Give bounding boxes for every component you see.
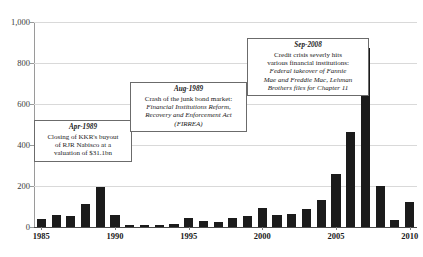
annotation-date: Sep-2008 bbox=[251, 41, 365, 49]
bar bbox=[125, 225, 134, 227]
bar bbox=[405, 202, 414, 227]
y-tick-label: 800 bbox=[17, 58, 30, 68]
annotation-line: Brothers files for Chapter 11 bbox=[251, 84, 365, 92]
y-tick-label: 0 bbox=[26, 222, 30, 232]
clipped-header-text bbox=[180, 0, 420, 5]
x-tick-mark bbox=[336, 227, 337, 230]
bar bbox=[199, 221, 208, 227]
x-axis-labels: 198519901995200020052010 bbox=[34, 229, 417, 245]
bar bbox=[214, 222, 223, 227]
bar bbox=[37, 219, 46, 227]
annotation-aug-1989: Aug-1989 Crash of the junk bond market: … bbox=[130, 82, 247, 132]
bar bbox=[110, 215, 119, 227]
bar bbox=[376, 186, 385, 227]
annotation-date: Apr-1989 bbox=[38, 123, 128, 131]
x-tick-label: 2010 bbox=[401, 231, 418, 241]
bar-chart: 02004006008001,000 198519901995200020052… bbox=[0, 0, 423, 257]
annotation-line: Federal takeover of Fannie bbox=[251, 67, 365, 75]
bar bbox=[317, 200, 326, 227]
x-tick-mark bbox=[410, 227, 411, 230]
annotation-line: valuation of $31.1bn bbox=[38, 149, 128, 157]
y-tick-label: 600 bbox=[17, 99, 30, 109]
bar bbox=[155, 225, 164, 227]
x-tick-mark bbox=[115, 227, 116, 230]
annotation-line: Recovery and Enforcement Act bbox=[134, 111, 243, 119]
x-axis-line bbox=[34, 227, 417, 228]
bar bbox=[96, 187, 105, 227]
annotation-line: Financial Institutions Reform, bbox=[134, 103, 243, 111]
annotation-sep-2008: Sep-2008 Credit crisis severly hits vari… bbox=[247, 38, 369, 96]
bar bbox=[331, 174, 340, 227]
bar bbox=[258, 208, 267, 227]
x-tick-label: 1985 bbox=[33, 231, 50, 241]
annotation-line: Credit crisis severly hits bbox=[251, 51, 365, 59]
bar bbox=[81, 204, 90, 227]
annotation-line: various financial institutions: bbox=[251, 59, 365, 67]
y-tick-label: 400 bbox=[17, 140, 30, 150]
x-tick-label: 1995 bbox=[180, 231, 197, 241]
bar bbox=[52, 215, 61, 227]
y-tick-label: 1,000 bbox=[11, 17, 30, 27]
x-tick-mark bbox=[262, 227, 263, 230]
bar bbox=[228, 218, 237, 227]
bar bbox=[302, 209, 311, 227]
bar bbox=[243, 216, 252, 227]
annotation-line: Closing of KKR's buyout bbox=[38, 133, 128, 141]
x-tick-label: 2000 bbox=[254, 231, 271, 241]
annotation-date: Aug-1989 bbox=[134, 85, 243, 93]
x-tick-mark bbox=[41, 227, 42, 230]
annotation-apr-1989: Apr-1989 Closing of KKR's buyout of RJR … bbox=[34, 120, 132, 162]
annotation-line: of RJR Nabisco at a bbox=[38, 141, 128, 149]
x-tick-label: 1990 bbox=[107, 231, 124, 241]
bar bbox=[346, 132, 355, 227]
annotation-line: Crash of the junk bond market: bbox=[134, 95, 243, 103]
y-tick-mark bbox=[30, 227, 34, 228]
bar bbox=[66, 216, 75, 227]
annotation-line: (FIRREA) bbox=[134, 120, 243, 128]
x-tick-label: 2005 bbox=[327, 231, 344, 241]
x-tick-mark bbox=[189, 227, 190, 230]
bar bbox=[287, 214, 296, 227]
annotation-line: Mae and Freddie Mac, Lehman bbox=[251, 76, 365, 84]
bar bbox=[272, 215, 281, 227]
bar bbox=[169, 224, 178, 227]
bar bbox=[184, 218, 193, 227]
bar bbox=[140, 225, 149, 227]
bar bbox=[390, 220, 399, 227]
y-tick-label: 200 bbox=[17, 181, 30, 191]
